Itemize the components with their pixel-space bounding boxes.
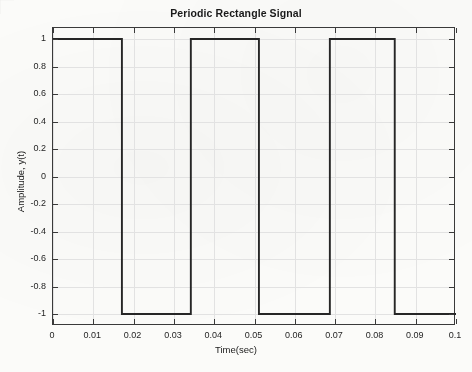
y-tick-mark bbox=[53, 204, 58, 205]
chart-title: Periodic Rectangle Signal bbox=[0, 7, 472, 19]
x-tick-label: 0 bbox=[49, 330, 54, 340]
y-tick-mark bbox=[449, 259, 454, 260]
y-tick-mark bbox=[449, 149, 454, 150]
x-tick-mark bbox=[295, 28, 296, 33]
y-tick-mark bbox=[449, 232, 454, 233]
x-tick-label: 0.01 bbox=[84, 330, 102, 340]
y-tick-label: -0.8 bbox=[10, 281, 46, 291]
y-axis-title: Amplitude, y(t) bbox=[15, 107, 26, 257]
y-tick-mark bbox=[449, 94, 454, 95]
x-tick-label: 0.03 bbox=[164, 330, 182, 340]
y-tick-mark bbox=[53, 259, 58, 260]
x-tick-label: 0.1 bbox=[449, 330, 462, 340]
y-tick-mark bbox=[53, 122, 58, 123]
x-tick-mark bbox=[134, 319, 135, 324]
y-tick-mark bbox=[449, 122, 454, 123]
y-tick-label: 0.6 bbox=[10, 88, 46, 98]
plot-area bbox=[52, 27, 455, 325]
x-tick-label: 0.09 bbox=[406, 330, 424, 340]
x-tick-label: 0.05 bbox=[245, 330, 263, 340]
x-tick-mark bbox=[214, 28, 215, 33]
y-tick-mark bbox=[449, 177, 454, 178]
page-caption-fragment bbox=[12, 362, 312, 372]
x-tick-mark bbox=[335, 28, 336, 33]
y-tick-mark bbox=[53, 177, 58, 178]
x-tick-mark bbox=[255, 28, 256, 33]
y-tick-mark bbox=[449, 67, 454, 68]
y-tick-mark bbox=[53, 287, 58, 288]
x-tick-mark bbox=[416, 28, 417, 33]
x-tick-mark bbox=[214, 319, 215, 324]
y-tick-label: -1 bbox=[10, 308, 46, 318]
x-tick-mark bbox=[456, 319, 457, 324]
x-tick-mark bbox=[416, 319, 417, 324]
x-tick-mark bbox=[53, 319, 54, 324]
x-tick-mark bbox=[93, 319, 94, 324]
x-tick-mark bbox=[53, 28, 54, 33]
y-tick-mark bbox=[449, 39, 454, 40]
x-tick-mark bbox=[174, 319, 175, 324]
y-tick-mark bbox=[53, 232, 58, 233]
x-axis-title: Time(sec) bbox=[0, 344, 472, 355]
x-tick-label: 0.08 bbox=[366, 330, 384, 340]
y-tick-label: 0.8 bbox=[10, 61, 46, 71]
y-tick-mark bbox=[53, 314, 58, 315]
x-tick-mark bbox=[375, 319, 376, 324]
y-tick-mark bbox=[449, 204, 454, 205]
y-tick-mark bbox=[53, 67, 58, 68]
y-tick-mark bbox=[449, 287, 454, 288]
x-tick-label: 0.02 bbox=[124, 330, 142, 340]
x-tick-mark bbox=[93, 28, 94, 33]
figure-periodic-rectangle-signal: Periodic Rectangle Signal 00.010.020.030… bbox=[0, 0, 472, 372]
x-tick-mark bbox=[335, 319, 336, 324]
x-tick-label: 0.06 bbox=[285, 330, 303, 340]
y-tick-mark bbox=[53, 39, 58, 40]
x-tick-mark bbox=[456, 28, 457, 33]
x-tick-label: 0.07 bbox=[325, 330, 343, 340]
x-tick-mark bbox=[295, 319, 296, 324]
x-tick-mark bbox=[375, 28, 376, 33]
signal-polyline bbox=[53, 39, 456, 314]
x-tick-label: 0.04 bbox=[204, 330, 222, 340]
x-tick-mark bbox=[134, 28, 135, 33]
y-tick-mark bbox=[53, 94, 58, 95]
y-tick-mark bbox=[53, 149, 58, 150]
x-tick-mark bbox=[174, 28, 175, 33]
y-tick-label: 1 bbox=[10, 33, 46, 43]
y-tick-mark bbox=[449, 314, 454, 315]
x-tick-mark bbox=[255, 319, 256, 324]
signal-waveform bbox=[53, 28, 456, 326]
